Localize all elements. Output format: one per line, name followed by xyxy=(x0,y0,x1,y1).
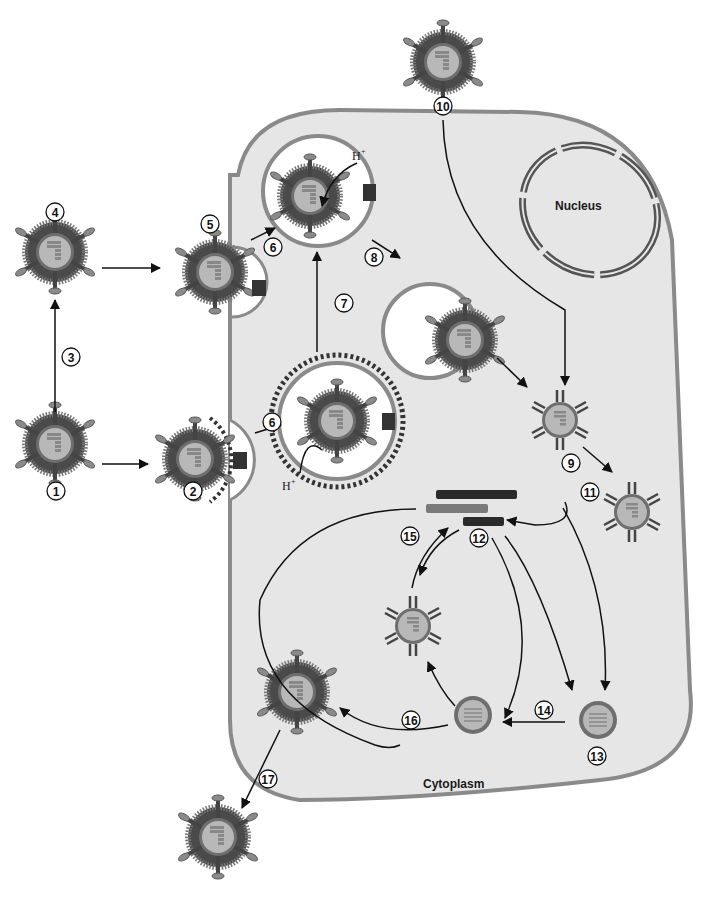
svg-text:9: 9 xyxy=(568,457,575,471)
svg-text:2: 2 xyxy=(190,485,197,499)
svg-text:1: 1 xyxy=(53,485,60,499)
step-13: 13 xyxy=(588,747,606,765)
diagram-canvas: Nucleus xyxy=(0,0,713,907)
released-virion xyxy=(177,795,258,879)
step-9: 9 xyxy=(562,454,580,472)
svg-text:3: 3 xyxy=(68,351,75,365)
step-2: 2 xyxy=(184,482,202,500)
replication-cycle-diagram: Nucleus xyxy=(0,0,713,907)
svg-text:5: 5 xyxy=(207,218,214,232)
step-6b: 6 xyxy=(263,413,281,431)
step-12: 12 xyxy=(470,529,488,547)
svg-text:4: 4 xyxy=(52,206,59,220)
svg-text:10: 10 xyxy=(436,100,450,114)
step-17: 17 xyxy=(259,770,277,788)
proton-sup-top: + xyxy=(361,147,366,156)
step-6a: 6 xyxy=(264,238,282,256)
step-16: 16 xyxy=(402,711,420,729)
step-10: 10 xyxy=(434,97,452,115)
svg-text:16: 16 xyxy=(404,714,418,728)
step-3: 3 xyxy=(62,348,80,366)
svg-text:11: 11 xyxy=(584,486,597,500)
step-4: 4 xyxy=(46,203,64,221)
step-11: 11 xyxy=(581,483,599,501)
step-7: 7 xyxy=(335,294,353,312)
proton-sup-bottom: + xyxy=(291,477,296,486)
svg-text:15: 15 xyxy=(403,530,417,544)
step-8: 8 xyxy=(365,248,383,266)
step-1: 1 xyxy=(47,482,65,500)
particle-step13 xyxy=(579,701,617,739)
particle-step14 xyxy=(454,696,492,734)
svg-text:8: 8 xyxy=(371,251,378,265)
step-15: 15 xyxy=(401,527,419,545)
proton-label-top: H xyxy=(352,149,361,163)
cytoplasm-label: Cytoplasm xyxy=(423,777,484,791)
svg-text:7: 7 xyxy=(341,297,348,311)
step-14: 14 xyxy=(535,701,553,719)
nucleus-label: Nucleus xyxy=(555,199,602,213)
svg-text:14: 14 xyxy=(537,704,551,718)
virion-step1 xyxy=(14,402,95,486)
svg-text:6: 6 xyxy=(270,241,277,255)
svg-text:12: 12 xyxy=(472,532,486,546)
bar-top xyxy=(436,490,517,499)
svg-text:17: 17 xyxy=(261,773,275,787)
svg-text:13: 13 xyxy=(590,750,604,764)
svg-text:6: 6 xyxy=(269,416,276,430)
step-5: 5 xyxy=(201,215,219,233)
virion-step4 xyxy=(14,210,95,294)
bar-mid xyxy=(426,504,488,513)
proton-label-bottom: H xyxy=(282,479,291,493)
virion-step10 xyxy=(402,20,483,104)
bar-bottom xyxy=(463,517,504,526)
